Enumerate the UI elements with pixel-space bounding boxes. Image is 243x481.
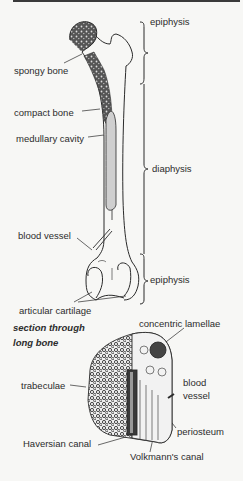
label-blood-vessel-2-line2: vessel bbox=[183, 390, 210, 401]
label-articular-cartilage: articular cartilage bbox=[19, 305, 91, 316]
label-spongy-bone: spongy bone bbox=[14, 65, 68, 76]
femur-drawing bbox=[70, 22, 139, 300]
label-blood-vessel: blood vessel bbox=[18, 230, 71, 241]
bone-section-drawing bbox=[88, 332, 174, 442]
section-title-line2: long bone bbox=[13, 337, 58, 348]
label-trabeculae: trabeculae bbox=[21, 380, 65, 391]
section-title-line1: section through bbox=[13, 322, 85, 333]
label-compact-bone: compact bone bbox=[14, 107, 74, 118]
label-medullary-cavity: medullary cavity bbox=[16, 133, 84, 144]
label-volkmanns-canal: Volkmann's canal bbox=[130, 451, 204, 462]
label-haversian-canal: Haversian canal bbox=[23, 438, 91, 449]
brace-lines bbox=[140, 22, 148, 304]
label-periosteum: periosteum bbox=[177, 426, 224, 437]
label-blood-vessel-2-line1: blood bbox=[183, 377, 206, 388]
label-epiphysis-bottom: epiphysis bbox=[150, 274, 190, 285]
label-diaphysis: diaphysis bbox=[152, 163, 192, 174]
label-concentric-lamellae: concentric lamellae bbox=[139, 318, 220, 329]
label-epiphysis-top: epiphysis bbox=[150, 16, 190, 27]
